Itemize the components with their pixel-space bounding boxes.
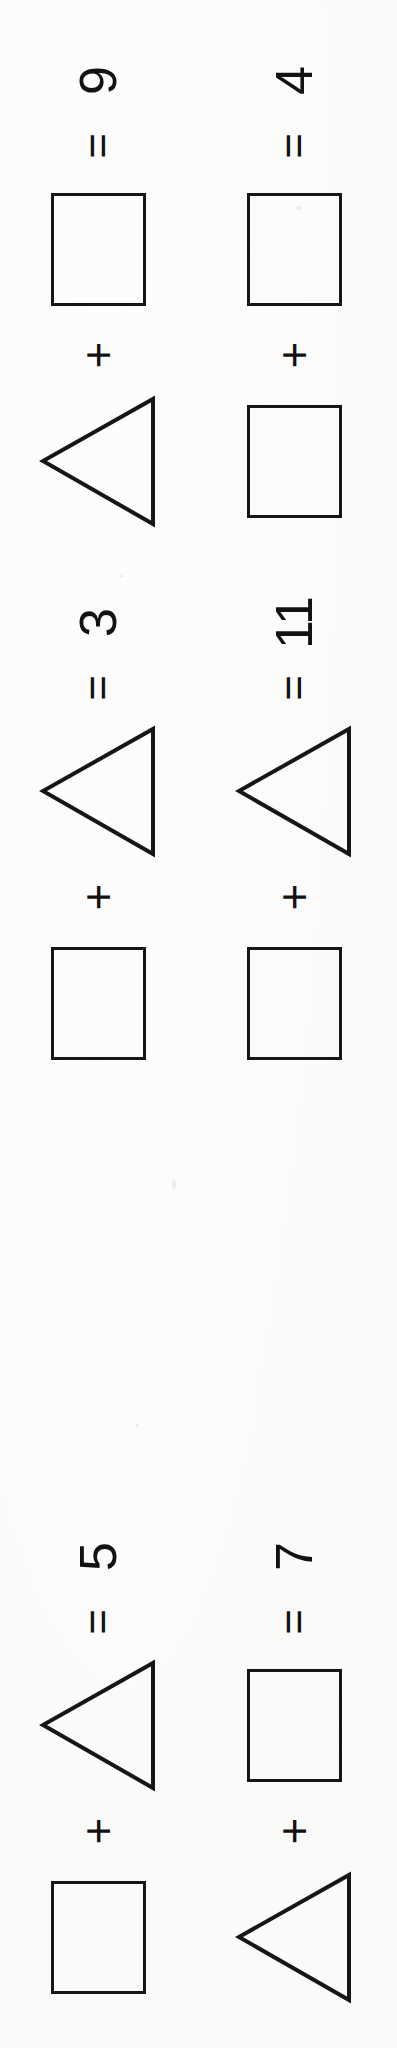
operator-slot: + bbox=[204, 1800, 384, 1862]
operator-slot: + bbox=[204, 324, 384, 386]
triangle-shape bbox=[39, 395, 157, 528]
answer-value: 5 bbox=[72, 1543, 124, 1571]
equals-sign: = bbox=[272, 133, 316, 159]
equals-slot: = bbox=[204, 660, 384, 716]
answer-slot: 4 bbox=[204, 44, 384, 118]
plus-sign: + bbox=[75, 342, 121, 369]
plus-sign: + bbox=[271, 884, 317, 911]
second-shape-slot bbox=[204, 928, 384, 1078]
equation-eq-3: 3 = + bbox=[8, 586, 188, 1078]
answer-slot: 5 bbox=[8, 1520, 188, 1594]
square-shape bbox=[51, 193, 146, 306]
answer-slot: 7 bbox=[204, 1520, 384, 1594]
equals-sign: = bbox=[272, 675, 316, 701]
equation-eq-5: 5 = + bbox=[8, 1520, 188, 2012]
equals-slot: = bbox=[8, 118, 188, 174]
triangle-shape bbox=[235, 725, 353, 858]
answer-slot: 9 bbox=[8, 44, 188, 118]
operator-slot: + bbox=[8, 324, 188, 386]
square-shape bbox=[247, 1669, 342, 1782]
equals-sign: = bbox=[272, 1609, 316, 1635]
operator-slot: + bbox=[8, 866, 188, 928]
plus-sign: + bbox=[271, 342, 317, 369]
first-shape-slot bbox=[204, 174, 384, 324]
operator-slot: + bbox=[8, 1800, 188, 1862]
equals-slot: = bbox=[8, 660, 188, 716]
square-shape bbox=[51, 1881, 146, 1994]
second-shape-slot bbox=[204, 386, 384, 536]
answer-value: 11 bbox=[268, 597, 320, 649]
first-shape-slot bbox=[8, 716, 188, 866]
equation-eq-4: 11 = + bbox=[204, 586, 384, 1078]
square-shape bbox=[247, 947, 342, 1060]
plus-sign: + bbox=[75, 1818, 121, 1845]
answer-value: 7 bbox=[268, 1543, 320, 1571]
equals-slot: = bbox=[8, 1594, 188, 1650]
equation-eq-1: 9 = + bbox=[8, 44, 188, 536]
first-shape-slot bbox=[8, 174, 188, 324]
scan-speck bbox=[136, 1424, 139, 1427]
plus-sign: + bbox=[271, 1818, 317, 1845]
equals-slot: = bbox=[204, 118, 384, 174]
equals-sign: = bbox=[76, 675, 120, 701]
equation-eq-6: 7 = + bbox=[204, 1520, 384, 2012]
first-shape-slot bbox=[204, 716, 384, 866]
first-shape-slot bbox=[8, 1650, 188, 1800]
operator-slot: + bbox=[204, 866, 384, 928]
equals-slot: = bbox=[204, 1594, 384, 1650]
second-shape-slot bbox=[204, 1862, 384, 2012]
triangle-shape bbox=[39, 1659, 157, 1792]
answer-value: 9 bbox=[72, 67, 124, 95]
second-shape-slot bbox=[8, 928, 188, 1078]
equals-sign: = bbox=[76, 1609, 120, 1635]
answer-slot: 3 bbox=[8, 586, 188, 660]
answer-value: 4 bbox=[268, 67, 320, 95]
second-shape-slot bbox=[8, 386, 188, 536]
second-shape-slot bbox=[8, 1862, 188, 2012]
square-shape bbox=[51, 947, 146, 1060]
equals-sign: = bbox=[76, 133, 120, 159]
plus-sign: + bbox=[75, 884, 121, 911]
triangle-shape bbox=[235, 1871, 353, 2004]
worksheet-page: 9 = + 4 = + bbox=[0, 0, 397, 2048]
square-shape bbox=[247, 193, 342, 306]
square-shape bbox=[247, 405, 342, 518]
scan-speck bbox=[172, 1180, 176, 1189]
first-shape-slot bbox=[204, 1650, 384, 1800]
answer-slot: 11 bbox=[204, 586, 384, 660]
equation-eq-2: 4 = + bbox=[204, 44, 384, 536]
triangle-shape bbox=[39, 725, 157, 858]
answer-value: 3 bbox=[72, 609, 124, 637]
scan-speck bbox=[120, 575, 123, 578]
